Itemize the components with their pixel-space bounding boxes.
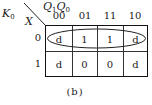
figure-caption: (b) xyxy=(60,86,90,97)
